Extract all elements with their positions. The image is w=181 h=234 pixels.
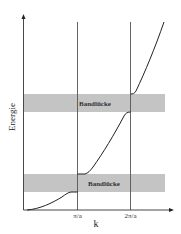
y-axis-arrow-icon [22, 14, 26, 19]
energy-band-1 [27, 192, 78, 210]
energy-band-2 [78, 112, 131, 174]
band-gap-label-upper: Bandlücke [79, 100, 111, 108]
x-axis-label: k [94, 218, 99, 229]
x-axis-arrow-icon [169, 208, 174, 212]
energy-band-3 [131, 22, 165, 94]
band-structure-diagram: Bandlücke Bandlücke π/a 2π/a k Energie [0, 0, 181, 234]
y-axis-label: Energie [7, 103, 17, 131]
x-tick-pi-a: π/a [73, 212, 82, 220]
band-gap-label-lower: Bandlücke [88, 180, 120, 188]
x-tick-2pi-a: 2π/a [124, 212, 137, 220]
